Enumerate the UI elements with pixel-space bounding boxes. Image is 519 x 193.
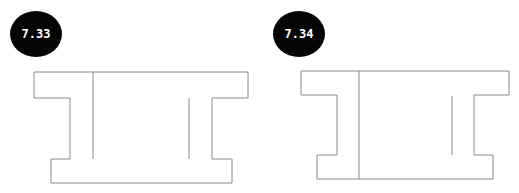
- figure-label: 7.34: [285, 27, 314, 41]
- i-beam-outline: [301, 71, 509, 179]
- figure-label: 7.33: [22, 27, 51, 41]
- figure-7-34: 7.34: [273, 11, 509, 179]
- diagram-canvas: 7.33 7.34: [0, 0, 519, 193]
- figure-7-33: 7.33: [10, 11, 248, 183]
- i-beam-outline: [34, 72, 248, 183]
